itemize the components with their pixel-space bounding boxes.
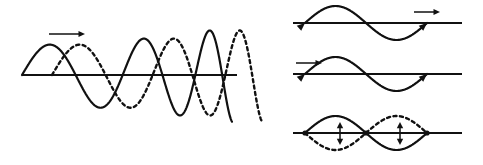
wave-diagram-canvas: [0, 0, 483, 165]
propagation-arrow-right-top-panel: [414, 9, 440, 15]
arrow-head: [79, 31, 86, 37]
propagation-arrow-left-middle-panel: [296, 60, 322, 66]
node-middle: [363, 130, 368, 135]
node-right: [424, 130, 429, 135]
panel-right-bottom: [293, 116, 462, 150]
node-left: [302, 130, 307, 135]
propagation-arrow-right-left-panel: [49, 31, 85, 37]
panel-left: [22, 30, 262, 121]
arrow-head: [397, 122, 403, 128]
panel-right-top: [293, 6, 462, 40]
arrow-head: [337, 139, 343, 145]
arrow-head: [397, 139, 403, 145]
arrow-head: [434, 9, 441, 15]
arrow-head: [337, 122, 343, 128]
wave-dashed-left: [52, 30, 262, 121]
wave-diagram-figure: [0, 0, 483, 165]
panel-right-middle: [293, 57, 462, 91]
